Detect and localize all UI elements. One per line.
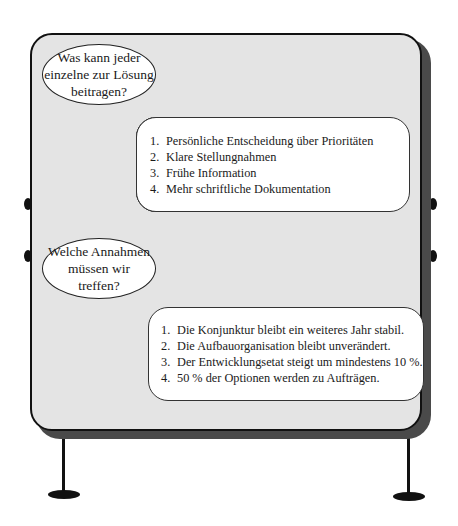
list-item: 2.Klare Stellungnahmen	[150, 149, 409, 165]
list-item: 2.Die Aufbauorganisation bleibt unveränd…	[161, 338, 423, 354]
list-item: 4.50 % der Optionen werden zu Aufträgen.	[161, 370, 423, 386]
list-item: 1.Persönliche Entscheidung über Prioritä…	[150, 133, 409, 149]
list-item: 3.Der Entwicklungsetat steigt um mindest…	[161, 354, 423, 370]
list-item: 3.Frühe Information	[150, 165, 409, 181]
question-text-2: Welche Annahmen müssen wir treffen?	[48, 243, 150, 294]
right-foot	[393, 492, 425, 501]
left-foot	[48, 490, 80, 499]
left-leg	[62, 430, 65, 492]
question-ellipse-2: Welche Annahmen müssen wir treffen?	[42, 238, 156, 299]
answer-list-1: 1.Persönliche Entscheidung über Prioritä…	[136, 117, 410, 212]
answer-list-2: 1.Die Konjunktur bleibt ein weiteres Jah…	[148, 307, 424, 401]
list-item: 4.Mehr schriftliche Dokumentation	[150, 181, 409, 197]
question-text-1: Was kann jeder einzelne zur Lösung beitr…	[44, 49, 153, 100]
list-item: 1.Die Konjunktur bleibt ein weiteres Jah…	[161, 322, 423, 338]
question-ellipse-1: Was kann jeder einzelne zur Lösung beitr…	[42, 44, 156, 105]
right-leg	[407, 432, 410, 494]
